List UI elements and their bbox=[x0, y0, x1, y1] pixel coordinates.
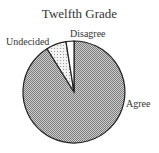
label-disagree: Disagree bbox=[70, 28, 106, 39]
label-undecided: Undecided bbox=[6, 36, 49, 47]
pie-chart bbox=[0, 0, 159, 153]
label-agree: Agree bbox=[126, 98, 150, 109]
